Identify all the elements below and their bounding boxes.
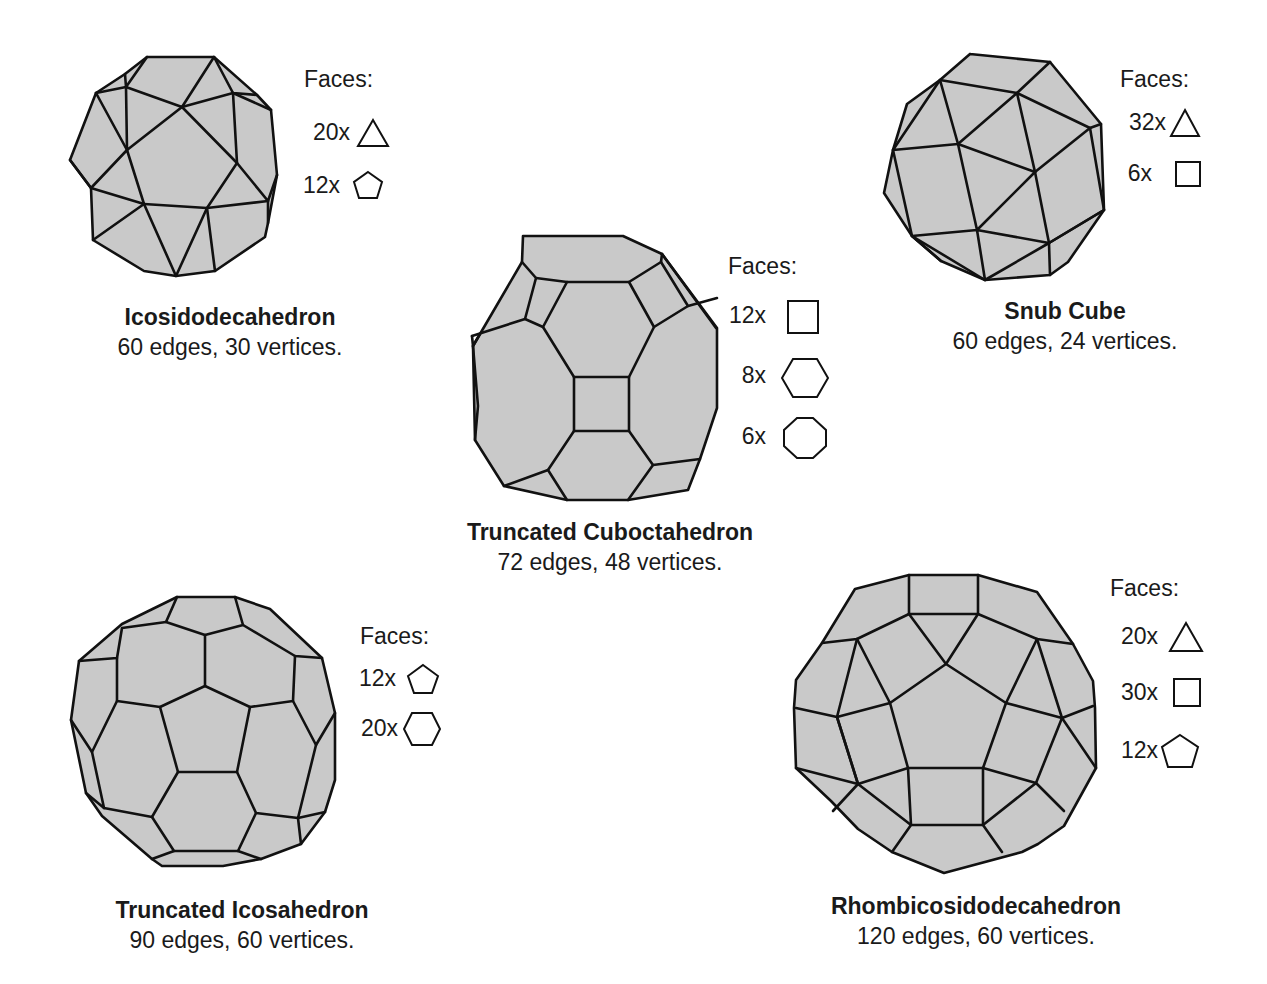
solid-name: Rhombicosidodecahedron bbox=[776, 891, 1176, 921]
solid-stats: 120 edges, 60 vertices. bbox=[776, 921, 1176, 951]
legend-row: 20x bbox=[1108, 623, 1158, 651]
face-count: 20x bbox=[1121, 623, 1158, 650]
square-icon bbox=[1172, 677, 1202, 713]
triangle-icon bbox=[1168, 621, 1204, 659]
legend-row: 30x bbox=[1108, 679, 1158, 707]
face-count: 30x bbox=[1121, 679, 1158, 706]
rhombicosidodecahedron-figure bbox=[0, 0, 1, 1]
rhombicosidodecahedron-legend: Faces: 20x 30x 12x bbox=[1108, 575, 1218, 775]
pentagon-icon bbox=[1160, 733, 1200, 775]
legend-title: Faces: bbox=[1110, 575, 1179, 602]
legend-row: 12x bbox=[1108, 737, 1158, 765]
face-count: 12x bbox=[1121, 737, 1158, 764]
rhombicosidodecahedron-caption: Rhombicosidodecahedron 120 edges, 60 ver… bbox=[776, 891, 1176, 951]
rhombicosidodecahedron-drawing bbox=[0, 0, 1267, 984]
